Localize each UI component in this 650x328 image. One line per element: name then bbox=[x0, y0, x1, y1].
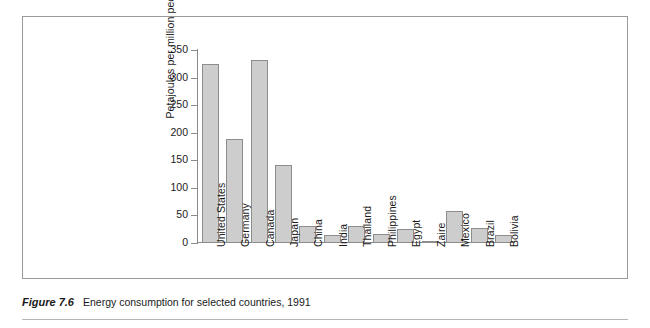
y-axis-tick-label: 150 bbox=[170, 153, 188, 165]
bar-slot bbox=[320, 50, 344, 243]
y-axis-tick-mark bbox=[191, 160, 197, 161]
y-axis-tick-mark bbox=[191, 188, 197, 189]
x-axis-label: Mexico bbox=[459, 213, 471, 247]
figure-caption-text: Energy consumption for selected countrie… bbox=[83, 296, 311, 308]
y-axis-tick-label: 350 bbox=[170, 43, 188, 55]
x-axis-label: India bbox=[337, 224, 349, 247]
figure-frame: Petajoules per million people 0501001502… bbox=[22, 16, 628, 279]
y-axis-tick-mark bbox=[191, 78, 197, 79]
bottom-divider bbox=[22, 319, 628, 320]
y-axis-tick-mark bbox=[191, 133, 197, 134]
y-axis-tick-mark bbox=[191, 215, 197, 216]
x-axis-label: Egypt bbox=[410, 220, 422, 247]
y-axis-tick-label: 300 bbox=[170, 71, 188, 83]
figure-number: Figure 7.6 bbox=[22, 296, 74, 308]
x-axis-label: Brazil bbox=[484, 220, 496, 247]
bar-slot bbox=[418, 50, 442, 243]
figure-caption: Figure 7.6Energy consumption for selecte… bbox=[22, 296, 628, 308]
y-axis-tick-label: 50 bbox=[176, 208, 188, 220]
x-axis-label: Japan bbox=[288, 218, 300, 247]
y-axis-tick-label: 0 bbox=[182, 236, 188, 248]
y-axis-tick-mark bbox=[191, 243, 197, 244]
x-axis-label: China bbox=[312, 219, 324, 247]
bar-slot bbox=[296, 50, 320, 243]
bar-chart: Petajoules per million people 0501001502… bbox=[133, 29, 483, 313]
y-axis-tick-label: 100 bbox=[170, 181, 188, 193]
y-axis-tick: 0 bbox=[197, 243, 198, 244]
x-axis-label: Zaire bbox=[435, 223, 447, 247]
x-axis-label: United States bbox=[215, 183, 227, 247]
x-axis-label: Bolivia bbox=[508, 215, 520, 247]
y-axis-tick-mark bbox=[191, 50, 197, 51]
x-axis-label: Philippines bbox=[386, 195, 398, 247]
x-axis-label: Canada bbox=[264, 210, 276, 247]
y-axis-tick-label: 200 bbox=[170, 126, 188, 138]
x-axis-label: Germany bbox=[239, 203, 251, 247]
y-axis-tick-mark bbox=[191, 105, 197, 106]
y-axis-tick-label: 250 bbox=[170, 98, 188, 110]
x-axis-label: Thailand bbox=[361, 206, 373, 247]
